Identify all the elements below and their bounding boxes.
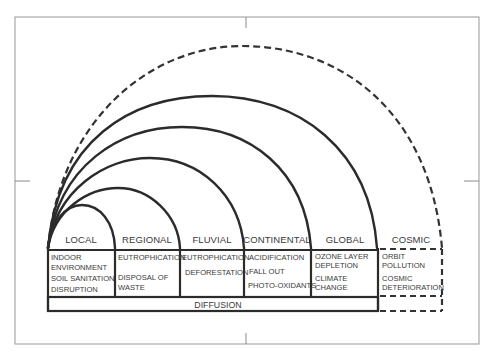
fluvial-item: EUTROPHICATION	[182, 253, 249, 262]
continental-item: PHOTO-OXIDANTS	[248, 281, 316, 290]
fluvial-item: DEFORESTATION	[185, 268, 248, 277]
local-item: SOIL SANITATION	[51, 274, 115, 283]
regional-item: WASTE	[118, 283, 145, 292]
environmental-scale-diagram: LOCAL REGIONAL FLUVIAL CONTINENTAL GLOBA…	[0, 0, 495, 359]
local-item: DISRUPTION	[51, 285, 98, 294]
cosmic-item: COSMIC	[382, 274, 413, 283]
global-item: DEPLETION	[315, 261, 358, 270]
zone-label-regional: REGIONAL	[122, 234, 172, 245]
local-item: INDOOR	[51, 253, 82, 262]
cosmic-item: POLLUTION	[382, 261, 425, 270]
zone-label-fluvial: FLUVIAL	[192, 234, 231, 245]
global-item: CLIMATE	[315, 274, 347, 283]
cosmic-item: ORBIT	[382, 252, 406, 261]
zone-label-continental: CONTINENTAL	[243, 234, 310, 245]
zone-label-global: GLOBAL	[326, 234, 365, 245]
global-item: CHANGE	[315, 283, 348, 292]
regional-item: DISPOSAL OF	[118, 273, 169, 282]
continental-item: FALL OUT	[249, 267, 285, 276]
regional-item: EUTROPHICATION	[118, 253, 185, 262]
local-item: ENVIRONMENT	[51, 263, 107, 272]
continental-item: ACIDIFICATION	[249, 253, 304, 262]
zone-label-local: LOCAL	[65, 234, 97, 245]
zone-label-cosmic: COSMIC	[392, 234, 431, 245]
cosmic-item: DETERIORATION	[382, 283, 444, 292]
global-item: OZONE LAYER	[315, 252, 369, 261]
diffusion-label: DIFFUSION	[194, 300, 241, 310]
